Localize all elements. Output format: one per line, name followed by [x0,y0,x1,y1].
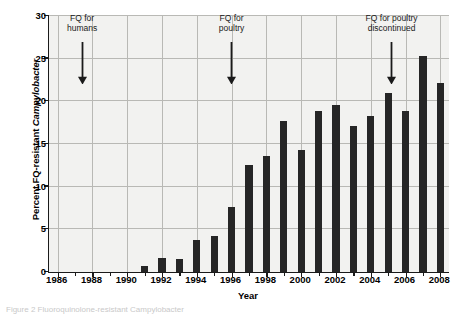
plot-area: FQ for humansFQ for poultryFQ for poultr… [48,16,449,273]
x-axis-title: Year [48,290,448,301]
annotation-arrow-icon [386,42,397,85]
bar [350,126,357,272]
y-axis-title-italic: Campylobacter [30,59,41,126]
bar [419,56,426,272]
bar [367,116,374,272]
bar [298,150,305,272]
bar [228,207,235,272]
gridline-vertical [197,16,198,272]
bar [315,111,322,272]
y-axis-tick-label: 20 [16,96,46,106]
chart-annotation-label: FQ for humans [37,13,127,33]
gridline-vertical [92,16,93,272]
bar [176,259,183,272]
gridline-vertical [127,16,128,272]
y-axis-tick-label: 30 [16,11,46,21]
bar [280,121,287,272]
annotation-arrow-icon [77,42,88,85]
bar [141,266,148,272]
bar [385,93,392,272]
y-axis-tick-label: 5 [16,224,46,234]
y-axis-tick-label: 25 [16,54,46,64]
y-axis-tick-label: 10 [16,182,46,192]
y-axis-tick-label: 15 [16,139,46,149]
annotation-arrow-icon [226,42,237,85]
figure-caption: Figure 2 Fluoroquinolone-resistant Campy… [6,305,426,314]
chart-annotation-label: FQ for poultry discontinued [347,13,437,33]
chart-annotation-label: FQ for poultry [187,13,277,33]
bar [402,111,409,272]
figure-container: Percent FQ-resistant Campylobacter FQ fo… [0,0,459,317]
bar [245,165,252,272]
gridline-vertical [58,16,59,272]
bar [332,105,339,272]
bar [437,83,444,272]
bar [263,156,270,272]
bar [193,240,200,272]
bar [158,258,165,272]
gridline-vertical [162,16,163,272]
bar [211,236,218,272]
x-axis-tick-label: 2008 [417,275,459,285]
